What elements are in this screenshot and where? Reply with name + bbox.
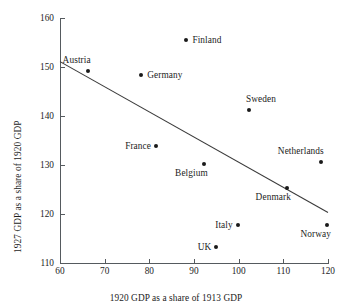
scatter-chart: 60708090100110120 110120130140150160 Aus… <box>0 0 352 307</box>
data-point <box>319 160 323 164</box>
data-point-label: Belgium <box>0 168 208 178</box>
data-point <box>236 223 240 227</box>
x-axis-label: 1920 GDP as a share of 1913 GDP <box>0 293 352 303</box>
data-point <box>247 108 251 112</box>
data-point <box>184 38 188 42</box>
data-point <box>139 73 143 77</box>
data-point-label: Norway <box>0 229 331 239</box>
y-axis-label: 1927 GDP as a share of 1920 GDP <box>13 120 23 253</box>
data-point <box>325 223 329 227</box>
data-point-label: Italy <box>0 220 233 230</box>
data-point-label: Netherlands <box>0 146 324 156</box>
data-point-label: Germany <box>147 70 182 80</box>
data-point <box>214 245 218 249</box>
data-point <box>285 186 289 190</box>
data-point-label: UK <box>0 242 211 252</box>
data-point-label: Sweden <box>246 94 276 104</box>
data-point-label: Denmark <box>0 192 291 202</box>
data-point <box>86 69 90 73</box>
data-point-label: Austria <box>0 55 91 65</box>
data-point <box>202 162 206 166</box>
data-point-label: Finland <box>192 35 221 45</box>
